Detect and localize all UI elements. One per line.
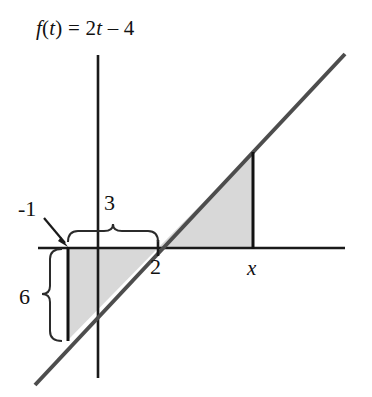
function-title: f(t) = 2t – 4 (36, 18, 135, 39)
function-line (35, 54, 345, 385)
brace-vertical-six (42, 249, 62, 341)
graph-canvas (0, 0, 372, 397)
function-title-equals: = 2 (63, 16, 97, 40)
label-three: 3 (104, 192, 115, 214)
function-graph-figure: f(t) = 2t – 4 -1 3 6 2 x (0, 0, 372, 397)
brace-horizontal-three (68, 224, 158, 242)
shaded-region-negative-triangle (68, 248, 158, 340)
neg-one-arrowhead-icon (58, 237, 68, 247)
label-two: 2 (150, 256, 161, 278)
label-x: x (247, 258, 256, 279)
function-title-close-paren: ) (55, 16, 62, 40)
function-title-tail: – 4 (102, 16, 134, 40)
label-negative-one: -1 (18, 198, 36, 220)
label-six: 6 (19, 286, 30, 308)
